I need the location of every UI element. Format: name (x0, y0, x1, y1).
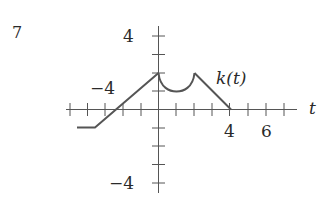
x-tick-label-6: 6 (261, 123, 272, 140)
y-tick-label-4: 4 (123, 28, 134, 45)
x-axis-label: t (309, 100, 316, 117)
x-tick-label-neg4: −4 (90, 80, 115, 97)
x-tick-label-4: 4 (224, 123, 235, 140)
axes (66, 26, 297, 193)
k-arc (159, 73, 195, 92)
function-label: k(t) (216, 70, 246, 87)
graph-of-k (0, 0, 332, 207)
y-tick-label-neg4: −4 (109, 175, 134, 192)
